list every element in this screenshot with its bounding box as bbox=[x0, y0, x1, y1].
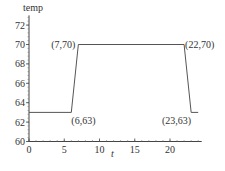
y-tick-label: 60 bbox=[15, 136, 25, 147]
series-line-temp bbox=[29, 45, 198, 113]
x-tick-label: 5 bbox=[62, 144, 67, 155]
x-tick-label: 0 bbox=[27, 144, 32, 155]
x-tick-label: 10 bbox=[95, 144, 105, 155]
point-annotation: (22,70) bbox=[185, 39, 214, 51]
series bbox=[29, 45, 198, 113]
annotations: (6,63)(7,70)(22,70)(23,63) bbox=[51, 39, 214, 128]
y-tick-label: 72 bbox=[15, 20, 25, 31]
point-annotation: (7,70) bbox=[51, 39, 75, 51]
temperature-chart: 6062646668707205101520 (6,63)(7,70)(22,7… bbox=[0, 0, 225, 171]
y-axis-label: temp bbox=[23, 2, 43, 13]
point-annotation: (6,63) bbox=[71, 115, 95, 127]
y-tick-label: 68 bbox=[15, 58, 25, 69]
point-annotation: (23,63) bbox=[162, 115, 191, 127]
y-tick-label: 64 bbox=[15, 97, 25, 108]
ticks: 6062646668707205101520 bbox=[15, 17, 198, 154]
x-tick-label: 15 bbox=[130, 144, 140, 155]
y-tick-label: 62 bbox=[15, 117, 25, 128]
x-axis-label: t bbox=[111, 148, 114, 159]
x-tick-label: 20 bbox=[165, 144, 175, 155]
y-tick-label: 70 bbox=[15, 39, 25, 50]
y-tick-label: 66 bbox=[15, 78, 25, 89]
